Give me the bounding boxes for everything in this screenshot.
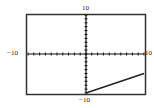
- series-line: [86, 74, 144, 94]
- x-max-label: 10: [145, 50, 152, 57]
- x-min-label: −10: [7, 50, 18, 57]
- y-max-label: 10: [82, 5, 89, 12]
- plot-area: [0, 0, 154, 108]
- axes: [28, 15, 144, 93]
- data-series: [86, 74, 144, 94]
- y-min-label: −10: [79, 97, 90, 104]
